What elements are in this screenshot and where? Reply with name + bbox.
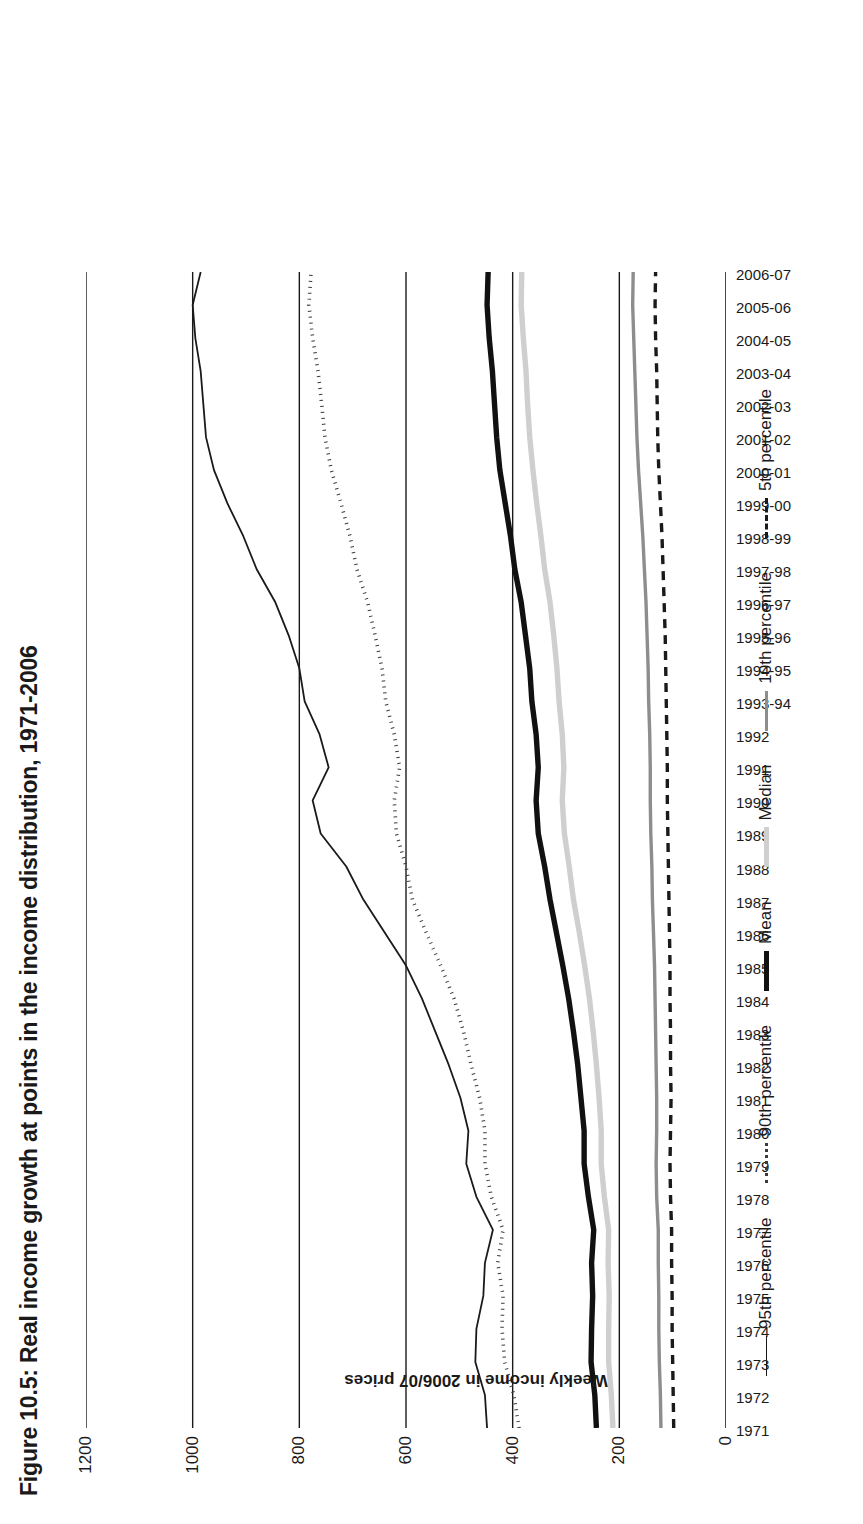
series-line (487, 272, 596, 1428)
legend-swatch-icon (765, 691, 768, 731)
figure-title: Figure 10.5: Real income growth at point… (16, 645, 43, 1496)
y-axis-title: Weekly income in 2006/07 prices (296, 1370, 656, 1390)
chart-canvas (86, 272, 726, 1428)
y-axis-tick-label: 1000 (183, 1436, 203, 1474)
legend-item-label: 95th percentile (756, 1217, 776, 1329)
y-axis-tick-label: 200 (609, 1436, 629, 1464)
figure-root: Figure 10.5: Real income growth at point… (0, 0, 863, 1524)
series-line (521, 272, 613, 1428)
legend-item: Mean (756, 901, 776, 991)
y-axis-tick-label: 0 (716, 1436, 736, 1445)
chart-legend: 95th percentile90th percentileMeanMedian… (756, 389, 776, 1376)
y-axis-tick-label: 400 (503, 1436, 523, 1464)
y-axis-tick-label: 800 (289, 1436, 309, 1464)
legend-item: 90th percentile (756, 1025, 776, 1184)
y-axis-tick-label: 1200 (76, 1436, 96, 1474)
legend-swatch-icon (764, 951, 769, 991)
x-axis-tick-label: 2005-06 (736, 299, 791, 316)
legend-swatch-icon (765, 1143, 768, 1183)
legend-swatch-icon (766, 1336, 767, 1376)
legend-swatch-icon (765, 498, 768, 538)
x-axis-tick-label: 2003-04 (736, 365, 791, 382)
legend-item: 95th percentile (756, 1217, 776, 1376)
legend-item-label: 10th percentile (756, 572, 776, 684)
legend-item-label: Median (756, 765, 776, 821)
legend-item-label: 90th percentile (756, 1025, 776, 1137)
x-axis-tick-label: 1971 (736, 1422, 769, 1439)
x-axis-tick-label: 1972 (736, 1389, 769, 1406)
x-axis-tick-label: 2004-05 (736, 332, 791, 349)
chart-plot-area: Weekly income in 2006/07 prices 02004006… (86, 272, 726, 1428)
legend-item: 5th percentile (756, 389, 776, 538)
y-axis-tick-label: 600 (396, 1436, 416, 1464)
x-axis-tick-label: 2006-07 (736, 266, 791, 283)
legend-item-label: Mean (756, 901, 776, 944)
series-line (193, 272, 493, 1428)
legend-swatch-icon (764, 827, 769, 867)
legend-item-label: 5th percentile (756, 389, 776, 491)
legend-item: Median (756, 765, 776, 868)
legend-item: 10th percentile (756, 572, 776, 731)
